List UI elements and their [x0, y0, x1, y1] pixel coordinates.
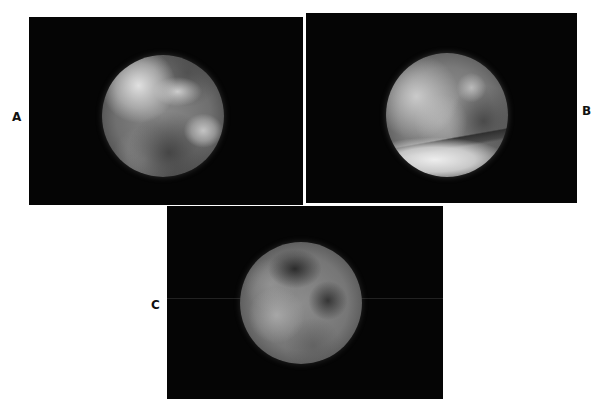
endoscope-view-c [240, 242, 362, 364]
panel-b-image [306, 13, 577, 203]
panel-c-image [167, 206, 443, 399]
endoscope-view-a [102, 55, 224, 177]
panel-a-image [29, 17, 303, 205]
panel-a-label: A [12, 110, 21, 124]
panel-b-label: B [582, 104, 591, 118]
endoscope-view-b [386, 53, 508, 177]
panel-c-label: C [151, 298, 160, 312]
